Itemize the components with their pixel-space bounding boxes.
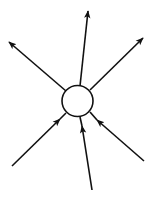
arrow-out-up-icon [80, 11, 88, 86]
arrow-in-bottom-right-segment [90, 112, 97, 120]
arrow-out-up-right-icon [90, 38, 143, 90]
arrow-in-bottom-left-segment [60, 113, 66, 119]
center-node-circle [62, 86, 93, 117]
arrow-in-bottom-right-icon [97, 120, 144, 161]
diagram-canvas [0, 0, 156, 202]
outgoing-arrows [9, 11, 143, 91]
arrow-in-bottom-segment [80, 117, 82, 126]
arrow-out-up-left-icon [9, 42, 66, 91]
arrow-in-bottom-icon [82, 126, 92, 190]
incoming-arrows [12, 112, 144, 190]
arrow-in-bottom-left-icon [12, 119, 60, 166]
